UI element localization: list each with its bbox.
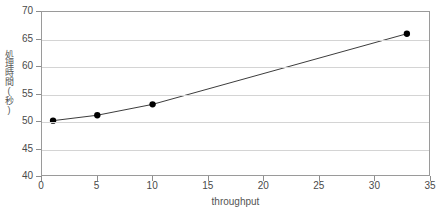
line-chart-figure: 処理時間(秒) 40455055606570 05101520253035 th… [0, 0, 438, 218]
y-tick-mark-70 [36, 11, 41, 12]
x-tick-label-25: 25 [299, 180, 339, 192]
x-tick-mark-5 [97, 176, 98, 181]
x-tick-mark-30 [374, 176, 375, 181]
x-tick-label-10: 10 [132, 180, 172, 192]
gridline-y-60 [42, 67, 429, 68]
x-tick-mark-0 [41, 176, 42, 181]
gridline-y-45 [42, 150, 429, 151]
series-line-0 [53, 34, 407, 121]
x-tick-mark-15 [208, 176, 209, 181]
x-tick-label-30: 30 [354, 180, 394, 192]
plot-area [41, 11, 430, 176]
y-axis-tick-labels: 40455055606570 [0, 11, 33, 176]
y-tick-label-60: 60 [5, 61, 33, 71]
x-tick-label-15: 15 [188, 180, 228, 192]
x-tick-label-35: 35 [410, 180, 438, 192]
x-tick-label-5: 5 [77, 180, 117, 192]
y-tick-label-45: 45 [5, 144, 33, 154]
data-point [149, 101, 155, 107]
x-tick-label-20: 20 [243, 180, 283, 192]
y-tick-mark-65 [36, 39, 41, 40]
x-tick-mark-20 [263, 176, 264, 181]
y-tick-mark-45 [36, 149, 41, 150]
data-series-line [42, 12, 429, 175]
y-tick-label-65: 65 [5, 34, 33, 44]
data-point [94, 112, 100, 118]
y-tick-label-70: 70 [5, 6, 33, 16]
x-tick-label-0: 0 [21, 180, 61, 192]
x-axis-title: throughput [41, 196, 430, 207]
x-tick-mark-35 [430, 176, 431, 181]
y-tick-label-55: 55 [5, 89, 33, 99]
x-axis-tick-labels: 05101520253035 [41, 180, 430, 194]
y-tick-mark-60 [36, 66, 41, 67]
data-point [404, 31, 410, 37]
y-tick-label-50: 50 [5, 116, 33, 126]
gridline-y-65 [42, 40, 429, 41]
x-tick-mark-25 [319, 176, 320, 181]
y-tick-mark-50 [36, 121, 41, 122]
y-tick-mark-55 [36, 94, 41, 95]
x-tick-mark-10 [152, 176, 153, 181]
gridline-y-55 [42, 95, 429, 96]
gridline-y-50 [42, 122, 429, 123]
